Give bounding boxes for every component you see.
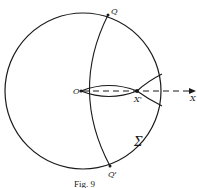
point-x-prime	[135, 89, 139, 93]
label-sigma: Σ	[133, 135, 143, 149]
figure-caption: Fig. 9	[74, 179, 96, 188]
label-q: Q	[111, 7, 118, 16]
cusp-line-upper	[137, 74, 162, 91]
point-o	[79, 89, 82, 92]
label-q-prime: Q'	[108, 170, 117, 179]
label-x-prime: X'	[133, 95, 142, 104]
label-o: O	[73, 87, 80, 96]
label-x: X	[189, 94, 196, 103]
point-q-prime	[109, 165, 112, 168]
diagram-canvas: Q O X' X Σ Q' Fig. 9	[0, 0, 197, 188]
point-q	[107, 14, 110, 17]
